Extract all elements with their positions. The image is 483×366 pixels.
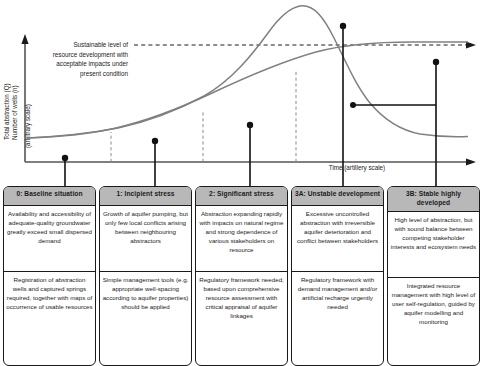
stage-header-significant-stress: 2: Significant stress (196, 187, 287, 206)
stage-action-incipient-stress: Simple management tools (e.g. appropriat… (100, 272, 191, 365)
y-axis-label-line2: Number of wells (n) (11, 85, 19, 140)
stage-marker-3b[interactable] (433, 59, 439, 190)
stage-card-incipient-stress[interactable]: 1: Incipient stress Growth of aquifer pu… (99, 186, 192, 366)
stage-card-unstable-development[interactable]: 3A: Unstable development Excessive uncon… (291, 186, 384, 366)
stage-description-unstable-development: Excessive uncontrolled abstraction with … (292, 206, 383, 272)
stage-description-stable-highly-developed: High level of abstraction, but with soun… (388, 212, 479, 278)
stage-marker-0[interactable] (62, 155, 68, 190)
stage-description-significant-stress: Abstraction expanding rapidly with impac… (196, 206, 287, 272)
annotation-line-4: present condition (80, 70, 128, 78)
branch-connector (350, 102, 436, 108)
stage-card-row: 0: Baseline situation Availability and a… (0, 186, 483, 366)
stage-header-unstable-development: 3A: Unstable development (292, 187, 383, 206)
x-axis-label: Time (artillery scale) (329, 164, 385, 172)
stage-header-baseline: 0: Baseline situation (4, 187, 95, 206)
stage-marker-1[interactable] (152, 138, 158, 190)
sustainable-level-annotation: Sustainable level of resource developmen… (53, 41, 129, 78)
stage-card-baseline[interactable]: 0: Baseline situation Availability and a… (3, 186, 96, 366)
stage-header-stable-highly-developed: 3B: Stable highly developed (388, 187, 479, 212)
annotation-line-2: resource development with (53, 51, 129, 59)
groundwater-development-chart: Total abstraction (Q) Number of wells (n… (0, 0, 483, 190)
diagram-root: Total abstraction (Q) Number of wells (n… (0, 0, 483, 366)
y-axis-label-line3: (arbitrary scale) (24, 104, 32, 148)
annotation-line-1: Sustainable level of (73, 41, 128, 48)
stage-card-significant-stress[interactable]: 2: Significant stress Abstraction expand… (195, 186, 288, 366)
stage-description-incipient-stress: Growth of aquifer pumping, but only few … (100, 206, 191, 272)
stage-marker-2[interactable] (247, 122, 253, 190)
stage-action-significant-stress: Regulatory framework needed, based upon … (196, 272, 287, 365)
stage-card-stable-highly-developed[interactable]: 3B: Stable highly developed High level o… (387, 186, 480, 366)
stage-description-baseline: Availability and accessibility of adequa… (4, 206, 95, 272)
stage-header-incipient-stress: 1: Incipient stress (100, 187, 191, 206)
stage-action-stable-highly-developed: Integrated resource management with high… (388, 278, 479, 365)
stage-action-unstable-development: Regulatory framework with demand managem… (292, 272, 383, 365)
stage-boundary-lines (111, 70, 296, 162)
stage-action-baseline: Registration of abstraction wells and ca… (4, 272, 95, 365)
annotation-line-3: acceptable impacts under (56, 60, 128, 68)
